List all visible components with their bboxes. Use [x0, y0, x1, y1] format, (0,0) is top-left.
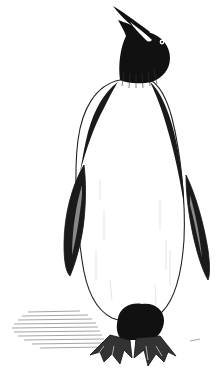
- right-flipper: [186, 175, 210, 280]
- penguin-illustration: [0, 0, 219, 383]
- right-foot: [134, 336, 176, 366]
- eye-pupil: [161, 41, 163, 43]
- feet-dark: [117, 304, 164, 340]
